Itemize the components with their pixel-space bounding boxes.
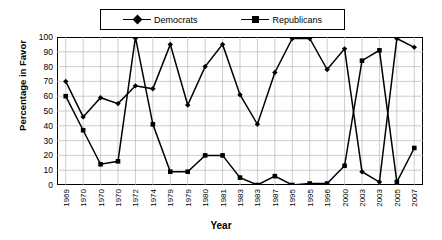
y-tick-label: 60 [44,91,53,101]
x-tick-label: 1979 [166,189,175,207]
chart-legend: Democrats Republicans [100,9,345,30]
x-tick-label: 1970 [97,189,106,207]
legend-entry-republicans: Republicans [241,14,322,25]
plot-area: 0102030405060708090100 19691970197019701… [57,37,423,185]
republicans-line-marker-icon [241,14,269,25]
legend-label-republicans: Republicans [272,15,322,25]
x-tick-label: 1995 [306,189,315,207]
x-tick-label: 1980 [201,189,210,207]
y-tick-label: 0 [48,180,53,190]
y-tick-label: 80 [44,62,53,72]
x-tick-label: 1969 [62,189,71,207]
x-tick-label: 1970 [79,189,88,207]
y-tick-label: 70 [44,76,53,86]
y-tick-label: 30 [44,136,53,146]
y-tick-label: 40 [44,121,53,131]
legend-entry-democrats: Democrats [123,14,198,25]
x-axis-title: Year [0,220,442,231]
y-tick-label: 100 [39,32,53,42]
x-tick-label: 1972 [131,189,140,207]
y-tick-label: 20 [44,150,53,160]
x-tick-label: 2003 [358,189,367,207]
y-axis-title: Percentage in Favor [17,16,28,156]
x-tick-label: 1995 [288,189,297,207]
legend-label-democrats: Democrats [154,15,198,25]
x-tick-label: 2000 [341,189,350,207]
chart-container: Democrats Republicans Percentage in Favo… [0,0,442,240]
x-tick-label: 1996 [323,189,332,207]
x-tick-label: 2003 [375,189,384,207]
x-tick-label: 1974 [149,189,158,207]
x-tick-label: 2005 [393,189,402,207]
x-tick-label: 1983 [236,189,245,207]
democrats-line-marker-icon [123,14,151,25]
x-tick-label: 1981 [219,189,228,207]
x-tick-label: 1987 [271,189,280,207]
y-tick-label: 10 [44,165,53,175]
x-tick-label: 1970 [114,189,123,207]
x-tick-label: 2007 [410,189,419,207]
x-tick-label: 1979 [184,189,193,207]
y-tick-label: 50 [44,106,53,116]
y-tick-label: 90 [44,47,53,57]
x-tick-label: 1983 [253,189,262,207]
chart-svg [57,37,423,185]
